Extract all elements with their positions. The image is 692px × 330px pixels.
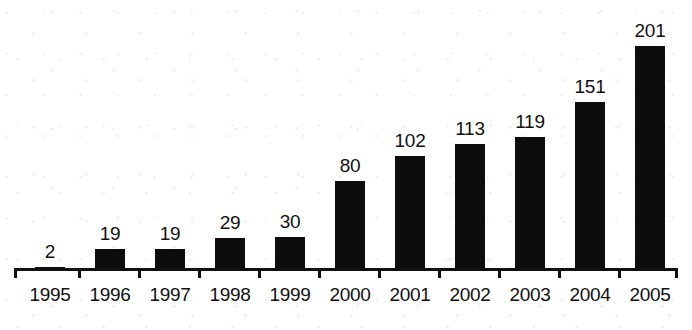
x-axis-category-label: 1999 [258, 285, 322, 304]
x-axis-category-label: 1998 [198, 285, 262, 304]
bar-value-label: 113 [440, 119, 500, 138]
x-axis-category-label: 1996 [78, 285, 142, 304]
x-axis-tick [138, 268, 141, 278]
bar-value-label: 19 [80, 224, 140, 243]
x-axis-tick [78, 268, 81, 278]
x-axis-line [14, 268, 678, 271]
bar[interactable] [215, 238, 245, 270]
bar[interactable] [575, 102, 605, 270]
bar[interactable] [155, 249, 185, 270]
bar-value-label: 201 [620, 21, 680, 40]
x-axis-category-label: 2002 [438, 285, 502, 304]
bar-group: 301999 [260, 0, 320, 330]
bar-group: 21995 [20, 0, 80, 330]
x-axis-tick [438, 268, 441, 278]
x-axis-category-label: 2004 [558, 285, 622, 304]
x-axis-category-label: 2001 [378, 285, 442, 304]
bar-value-label: 29 [200, 213, 260, 232]
bar-group: 291998 [200, 0, 260, 330]
bar-value-label: 2 [20, 242, 80, 261]
bar[interactable] [395, 156, 425, 270]
bar[interactable] [635, 46, 665, 270]
bar-value-label: 19 [140, 224, 200, 243]
bar[interactable] [95, 249, 125, 270]
bar-group: 191997 [140, 0, 200, 330]
bar-group: 191996 [80, 0, 140, 330]
x-axis-tick [618, 268, 621, 278]
x-axis-tick [675, 268, 678, 278]
bar-group: 1192003 [500, 0, 560, 330]
bar-value-label: 30 [260, 212, 320, 231]
bar[interactable] [335, 181, 365, 270]
bar-group: 802000 [320, 0, 380, 330]
x-axis-tick [258, 268, 261, 278]
bar-value-label: 80 [320, 156, 380, 175]
x-axis-category-label: 1995 [18, 285, 82, 304]
bar-value-label: 119 [500, 112, 560, 131]
bar-value-label: 151 [560, 77, 620, 96]
bar-group: 1512004 [560, 0, 620, 330]
bar[interactable] [455, 144, 485, 270]
bar-group: 1132002 [440, 0, 500, 330]
x-axis-category-label: 2000 [318, 285, 382, 304]
bar[interactable] [515, 137, 545, 270]
bar-value-label: 102 [380, 131, 440, 150]
x-axis-category-label: 2005 [618, 285, 682, 304]
x-axis-category-label: 1997 [138, 285, 202, 304]
x-axis-tick [558, 268, 561, 278]
x-axis-tick [498, 268, 501, 278]
x-axis-category-label: 2003 [498, 285, 562, 304]
x-axis-tick [378, 268, 381, 278]
x-axis-tick [318, 268, 321, 278]
plot-area: 2199519199619199729199830199980200010220… [0, 0, 692, 330]
x-axis-tick [198, 268, 201, 278]
bar-chart: 2199519199619199729199830199980200010220… [0, 0, 692, 330]
x-axis-tick [14, 268, 17, 278]
bar-group: 2012005 [620, 0, 680, 330]
bar[interactable] [275, 237, 305, 270]
bar-group: 1022001 [380, 0, 440, 330]
